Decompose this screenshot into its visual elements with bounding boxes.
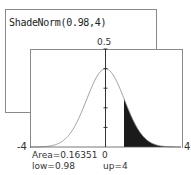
low-text: low=0.98 <box>32 161 75 171</box>
x-zero-label: 0 <box>102 150 108 160</box>
normal-curve-plot <box>0 0 191 175</box>
x-min-label: -4 <box>17 141 27 152</box>
x-max-label: 4 <box>184 141 190 152</box>
y-max-label: 0.5 <box>97 37 111 47</box>
area-text: Area=0.16351 <box>32 150 97 160</box>
shaded-area <box>124 99 181 147</box>
up-text: up=4 <box>103 161 128 171</box>
